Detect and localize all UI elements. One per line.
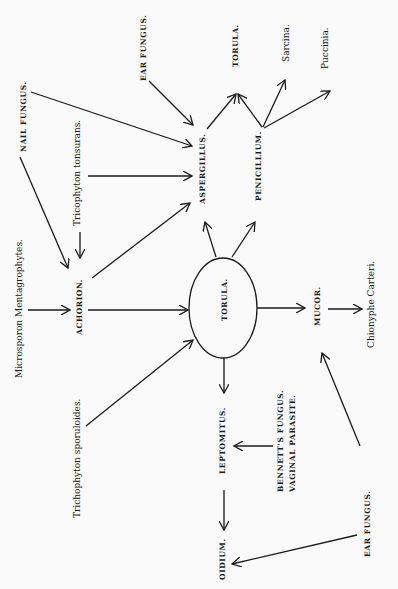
label-achorion: ACHORION. — [75, 279, 84, 335]
label-nail-fungus: NAIL FUNGUS. — [19, 81, 28, 152]
label-mucor: MUCOR. — [313, 286, 322, 326]
label-trichophyton-sporuloides: Trichophyton sporuloides. — [72, 399, 82, 518]
label-ear-fungus-bottom: EAR FUNGUS. — [363, 491, 372, 557]
label-leptomitus: LEPTOMITUS. — [218, 407, 227, 474]
label-chionyphe: Chionyphe Carteri. — [366, 261, 376, 348]
label-microsporon: Microsporon Mentagrophytes. — [14, 239, 24, 378]
diagram-canvas — [0, 0, 398, 589]
label-torula-top: TORULA. — [231, 24, 240, 67]
label-puccinia: Puccinia. — [320, 27, 330, 69]
label-penicillium: PENICILLIUM. — [254, 131, 263, 201]
label-tricophyton-tonsurans: Tricophyton tonsurans. — [72, 120, 82, 226]
label-vaginal-parasite: VAGINAL PARASITE. — [288, 394, 297, 492]
label-bennetts-fungus: BENNETT'S FUNGUS. — [276, 390, 285, 492]
label-ear-fungus-top: EAR FUNGUS. — [139, 15, 148, 81]
label-oidium: OIDIUM. — [218, 538, 227, 580]
label-aspergillus: ASPERGILLUS. — [198, 134, 207, 204]
label-torula-center: TORULA. — [220, 278, 229, 321]
label-sarcina: Sarcina. — [281, 24, 291, 62]
